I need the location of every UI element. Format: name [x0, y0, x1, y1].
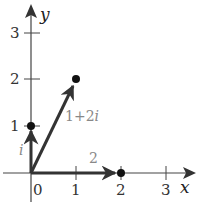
vector-1-plus-2i — [31, 86, 73, 173]
x-tick-label-0: 0 — [33, 181, 43, 199]
vector-label-1-plus-2i-imag: i — [95, 108, 99, 124]
vector-label-2: 2 — [89, 150, 98, 166]
point-1-plus-2i — [72, 75, 80, 83]
x-tick-label-2: 2 — [116, 181, 126, 199]
x-tick-label-1: 1 — [71, 181, 81, 199]
complex-plane-diagram: 0 1 2 3 1 2 3 x y i 1+2i 2 — [0, 0, 199, 204]
vector-label-i: i — [19, 142, 23, 158]
y-tick-label-3: 3 — [10, 24, 20, 42]
y-ticks — [24, 33, 40, 126]
x-tick-label-3: 3 — [161, 181, 171, 199]
x-axis-label: x — [180, 177, 190, 197]
y-tick-label-2: 2 — [10, 70, 20, 88]
point-2 — [117, 169, 125, 177]
y-axis-label: y — [39, 4, 50, 24]
vector-label-1-plus-2i-real: 1+2 — [65, 108, 95, 124]
vector-label-1-plus-2i: 1+2i — [65, 108, 99, 124]
y-tick-label-1: 1 — [10, 117, 20, 135]
point-i — [27, 122, 35, 130]
